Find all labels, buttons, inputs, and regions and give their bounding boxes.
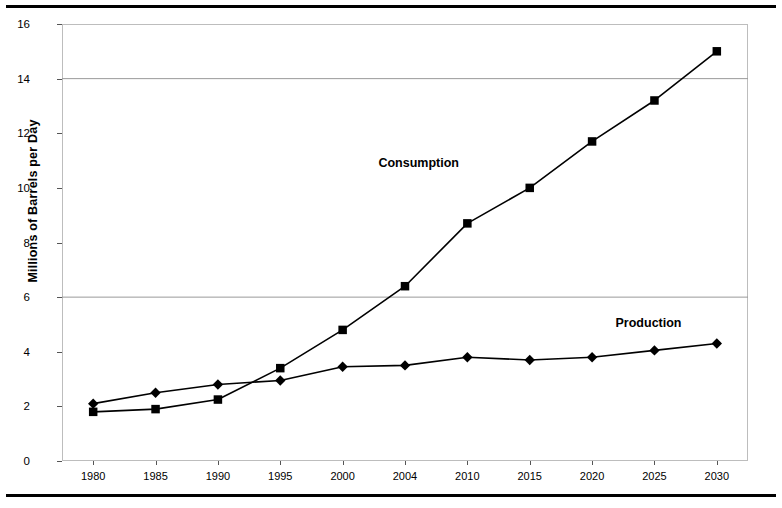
x-tick-mark [717, 461, 718, 465]
series-label-consumption: Consumption [378, 156, 459, 170]
y-tick-label: 12 [0, 127, 30, 139]
x-tick-mark [218, 461, 219, 465]
data-point-diamond [712, 338, 722, 348]
x-tick-label: 1990 [188, 470, 248, 482]
data-point-diamond [337, 362, 347, 372]
x-tick-label: 1985 [126, 470, 186, 482]
data-point-diamond [649, 345, 659, 355]
data-point-square [214, 395, 223, 404]
data-point-square [401, 282, 410, 291]
x-tick-mark [156, 461, 157, 465]
y-tick-label: 2 [0, 400, 30, 412]
data-point-diamond [88, 398, 98, 408]
data-point-diamond [150, 388, 160, 398]
x-tick-label: 2000 [313, 470, 373, 482]
y-tick-label: 14 [0, 73, 30, 85]
data-point-diamond [213, 379, 223, 389]
x-tick-mark [93, 461, 94, 465]
y-tick-label: 8 [0, 237, 30, 249]
chart-figure: Millions of Barrels per Day 024681012141… [0, 0, 782, 508]
y-tick-label: 16 [0, 18, 30, 30]
data-point-diamond [275, 375, 285, 385]
data-point-square [525, 184, 534, 193]
data-point-diamond [462, 352, 472, 362]
data-point-square [713, 47, 722, 56]
top-rule [6, 5, 776, 8]
series-label-production: Production [616, 316, 682, 330]
series-line-consumption [93, 51, 717, 412]
data-point-diamond [400, 360, 410, 370]
data-point-square [463, 219, 472, 228]
data-point-square [588, 137, 597, 146]
x-tick-label: 1980 [63, 470, 123, 482]
data-point-square [276, 364, 285, 373]
y-axis-title: Millions of Barrels per Day [26, 76, 40, 326]
y-tick-label: 10 [0, 182, 30, 194]
x-tick-mark [592, 461, 593, 465]
data-point-square [338, 326, 347, 335]
y-tick-label: 4 [0, 346, 30, 358]
x-tick-label: 1995 [250, 470, 310, 482]
bottom-rule [6, 494, 776, 497]
plot-area [62, 24, 748, 461]
x-tick-mark [405, 461, 406, 465]
data-point-square [89, 408, 98, 417]
x-tick-mark [467, 461, 468, 465]
x-tick-label: 2025 [624, 470, 684, 482]
x-tick-label: 2030 [687, 470, 747, 482]
x-tick-label: 2004 [375, 470, 435, 482]
y-tick-label: 0 [0, 455, 30, 467]
x-tick-label: 2020 [562, 470, 622, 482]
x-tick-mark [280, 461, 281, 465]
x-tick-label: 2015 [500, 470, 560, 482]
x-tick-mark [343, 461, 344, 465]
series-line-production [93, 344, 717, 404]
data-point-diamond [525, 355, 535, 365]
data-point-square [650, 96, 659, 105]
x-tick-label: 2010 [437, 470, 497, 482]
data-point-diamond [587, 352, 597, 362]
y-tick-mark [57, 461, 62, 462]
data-point-square [151, 405, 160, 414]
x-tick-mark [530, 461, 531, 465]
y-tick-label: 6 [0, 291, 30, 303]
chart-canvas [62, 24, 748, 461]
x-tick-mark [654, 461, 655, 465]
